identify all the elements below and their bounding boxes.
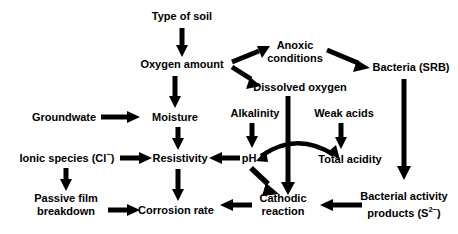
node-resistivity: Resistivity [152,152,207,165]
node-anoxic-conditions-line2: conditions [267,52,323,65]
flowchart-diagram: Type of soil Oxygen amount Anoxic condit… [0,0,458,234]
node-passive-film-breakdown: Passive film breakdown [34,192,98,218]
edge-anoxic-conditions-to-bacteria-srb [327,50,370,72]
edge-ionic-species-to-passive-film-breakdown [60,168,72,191]
node-type-of-soil: Type of soil [152,10,212,23]
node-passive-film-breakdown-line2: breakdown [34,205,98,218]
node-bacterial-activity-line2-superscript: 2− [428,205,437,214]
edge-ionic-species-to-resistivity [120,152,152,164]
edge-moisture-to-resistivity [172,127,184,150]
node-passive-film-breakdown-line1: Passive film [34,192,98,205]
node-dissolved-oxygen: Dissolved oxygen [253,81,347,94]
node-anoxic-conditions-line1: Anoxic [267,39,323,52]
node-bacteria-srb: Bacteria (SRB) [372,61,449,74]
node-ionic-species-tail: ) [111,152,115,164]
edge-bacterial-activity-to-cathodic-reaction [320,199,362,211]
node-bacterial-activity-line2-tail: ) [437,207,441,219]
node-ionic-species: Ionic species (Cl−) [20,152,115,165]
edge-passive-film-breakdown-to-corrosion-rate [108,204,140,216]
node-bacterial-activity-line1: Bacterial activity [360,188,447,205]
edge-type-of-soil-to-oxygen-amount [176,28,188,57]
node-ph: pH [242,152,257,165]
edge-oxygen-amount-to-anoxic-conditions [232,46,270,62]
edge-groundwater-to-moisture [101,111,140,123]
edge-weak-acids-to-total-acidity [335,123,347,149]
edge-ph-to-resistivity [209,152,240,164]
node-corrosion-rate: Corrosion rate [138,204,214,217]
node-anoxic-conditions: Anoxic conditions [267,39,323,65]
edge-cathodic-reaction-to-corrosion-rate [220,199,252,211]
node-ionic-species-text: Ionic species (Cl [20,152,107,164]
node-groundwater: Groundwate [32,111,96,124]
edge-bacteria-srb-to-bacterial-activity [397,79,411,180]
node-weak-acids: Weak acids [314,107,374,120]
node-oxygen-amount: Oxygen amount [140,58,223,71]
node-moisture: Moisture [152,111,198,124]
node-bacterial-activity-products: Bacterial activity products (S2−) [360,188,447,222]
node-bacterial-activity-line2-pre: products (S [367,207,428,219]
node-cathodic-reaction: Cathodic reaction [259,192,306,218]
node-cathodic-reaction-line2: reaction [259,205,306,218]
node-cathodic-reaction-line1: Cathodic [259,192,306,205]
edge-alkalinity-to-ph [246,123,258,148]
edge-oxygen-amount-to-moisture [169,76,181,108]
node-total-acidity: Total acidity [318,153,381,166]
node-bacterial-activity-line2: products (S2−) [360,205,447,222]
node-alkalinity: Alkalinity [231,107,280,120]
edge-resistivity-to-corrosion-rate [172,169,184,201]
